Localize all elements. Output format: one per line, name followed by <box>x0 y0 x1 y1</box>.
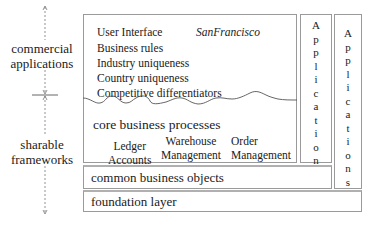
letter: l <box>300 60 332 74</box>
item-country-uniqueness: Country uniqueness <box>97 73 189 85</box>
process-warehouse-management: Warehouse Management <box>161 134 221 162</box>
sharable-label-line1: sharable <box>2 137 82 152</box>
foundation-layer-label: foundation layer <box>91 195 177 208</box>
process-ledger-line1: Ledger <box>108 137 151 153</box>
applications-column-2-label: A p p l i c a t i o n s <box>334 27 362 189</box>
process-order-line1: Order <box>231 134 291 148</box>
commercial-applications-label: commercial applications <box>2 41 82 71</box>
letter: i <box>334 135 362 149</box>
letter: p <box>300 46 332 60</box>
process-order-line2: Management <box>231 148 291 162</box>
item-competitive-differentiators: Competitive differentiators <box>97 88 222 100</box>
letter: a <box>300 100 332 114</box>
letter: i <box>334 81 362 95</box>
letter: i <box>300 73 332 87</box>
letter: a <box>334 108 362 122</box>
letter: p <box>334 54 362 68</box>
letter: c <box>300 87 332 101</box>
letter: o <box>334 149 362 163</box>
core-business-processes-title: core business processes <box>93 118 220 132</box>
letter: l <box>334 68 362 82</box>
letter: A <box>300 19 332 33</box>
item-user-interface: User Interface <box>97 27 162 39</box>
letter: p <box>300 33 332 47</box>
process-ledger-accounts: Ledger Accounts <box>108 137 151 167</box>
item-business-rules: Business rules <box>97 43 163 55</box>
process-warehouse-line2: Management <box>161 148 221 162</box>
sanfrancisco-label: SanFrancisco <box>196 27 260 39</box>
letter: p <box>334 41 362 55</box>
letter: c <box>334 95 362 109</box>
letter: t <box>334 122 362 136</box>
letter: s <box>334 176 362 190</box>
item-industry-uniqueness: Industry uniqueness <box>97 58 189 70</box>
process-warehouse-line1: Warehouse <box>161 134 221 148</box>
letter: A <box>334 27 362 41</box>
letter: t <box>300 114 332 128</box>
commercial-label-line1: commercial <box>2 41 82 56</box>
sharable-frameworks-label: sharable frameworks <box>2 137 82 167</box>
process-order-management: Order Management <box>231 134 291 162</box>
letter: o <box>300 141 332 155</box>
applications-column-1-label: A p p l i c a t i o n s <box>300 19 332 181</box>
letter: i <box>300 127 332 141</box>
letter: n <box>334 162 362 176</box>
common-business-objects-label: common business objects <box>91 171 224 184</box>
sharable-label-line2: frameworks <box>2 152 82 167</box>
commercial-label-line2: applications <box>2 56 82 71</box>
